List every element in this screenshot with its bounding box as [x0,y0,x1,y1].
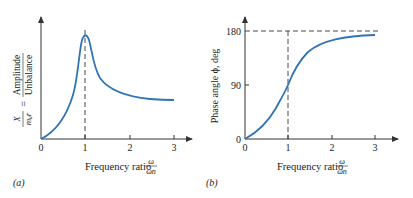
chart-a-amplitude-curve [41,36,174,140]
chart-a-y-label-eq: = [18,101,29,107]
chart-b-y-tick-label: 0 [236,134,241,145]
chart-b-phase-curve [245,35,375,139]
chart-b-x-tick-label: 0 [243,142,248,153]
chart-b-y-tick-label: 90 [231,80,241,91]
chart-b-x-label: Frequency ratio [277,161,343,172]
chart-a-x-label-frac-den: ωn [146,167,156,176]
chart-a-x-label: Frequency ratio [85,161,151,172]
figure-canvas: 0 1 2 3 Frequency ratio ω ωn X mᵤr = Amp… [0,0,413,198]
chart-b-y-label: Phase angle ϕ, deg [209,49,220,124]
chart-a-y-label-left-den: mᵤr [23,112,33,125]
chart-b-x-tick-label: 3 [373,142,378,153]
chart-b-y-tick-label: 180 [226,26,241,37]
chart-b: 0 1 2 3 0 90 180 Frequency ratio ω ωn Ph… [206,17,398,189]
chart-a-x-tick-label: 3 [172,142,177,153]
chart-a-y-label: X mᵤr = Amplitude Unbalance [12,53,34,127]
chart-a: 0 1 2 3 Frequency ratio ω ωn X mᵤr = Amp… [12,17,192,189]
chart-a-y-label-right-num: Amplitude [12,55,22,96]
panel-a-label: (a) [13,177,25,189]
chart-b-x-label-frac-num: ω [339,157,345,166]
chart-a-y-label-left-num: X [12,116,22,123]
chart-a-y-label-right-den: Unbalance [24,55,34,96]
chart-a-x-tick-label: 2 [128,142,133,153]
chart-a-x-tick-label: 1 [83,142,88,153]
chart-b-x-label-frac-den: ωn [337,167,347,176]
chart-a-x-label-frac-num: ω [148,157,154,166]
chart-b-x-tick-label: 1 [286,142,291,153]
panel-b-label: (b) [206,177,218,189]
chart-a-x-tick-label: 0 [39,142,44,153]
chart-b-x-tick-label: 2 [330,142,335,153]
